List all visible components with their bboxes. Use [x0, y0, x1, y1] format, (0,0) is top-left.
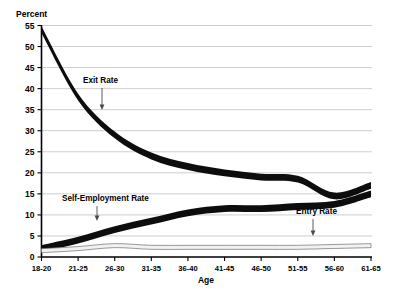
x-tick-label: 56-60: [325, 264, 344, 273]
x-tick-label: 51-55: [288, 264, 308, 273]
y-tick-label: 0: [30, 252, 35, 262]
x-tick-label: 26-30: [105, 264, 124, 273]
y-tick-label: 5: [30, 231, 35, 241]
y-tick-label: 30: [25, 126, 35, 136]
y-tick-label: 35: [25, 105, 35, 115]
y-tick-label: 15: [25, 189, 35, 199]
y-tick-label: 50: [25, 42, 35, 52]
y-axis-title: Percent: [16, 9, 47, 19]
x-tick-label: 41-45: [215, 264, 235, 273]
x-tick-label: 36-40: [178, 264, 197, 273]
chart-container: 0510152025303540455055 18-2021-2526-3031…: [0, 0, 394, 289]
x-tick-label: 31-35: [142, 264, 162, 273]
line-chart: 0510152025303540455055 18-2021-2526-3031…: [0, 0, 394, 289]
y-tick-label: 10: [25, 210, 35, 220]
x-tick-label: 61-65: [361, 264, 381, 273]
y-tick-label: 55: [25, 21, 35, 31]
exit-rate-label: Exit Rate: [83, 76, 118, 85]
y-tick-label: 45: [25, 63, 35, 73]
entry-rate-label: Entry Rate: [296, 207, 337, 216]
y-tick-label: 25: [25, 147, 35, 157]
x-tick-label: 46-50: [251, 264, 270, 273]
x-tick-label: 21-25: [68, 264, 88, 273]
y-tick-label: 20: [25, 168, 35, 178]
self-employment-rate-label: Self-Employment Rate: [62, 194, 149, 203]
x-tick-label: 18-20: [32, 264, 51, 273]
x-axis-title: Age: [198, 275, 214, 285]
y-tick-label: 40: [25, 84, 35, 94]
